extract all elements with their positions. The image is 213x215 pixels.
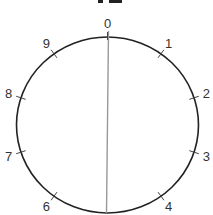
- tick-label-9: 9: [43, 36, 50, 51]
- cutoff-mark-right: [109, 0, 122, 3]
- tick-label-7: 7: [5, 149, 12, 164]
- cutoff-mark-left: [98, 0, 103, 3]
- tick-mark: [158, 50, 164, 58]
- tick-label-4: 4: [165, 199, 172, 214]
- tick-mark: [158, 192, 164, 200]
- tick-mark: [51, 50, 57, 58]
- tick-mark: [51, 192, 57, 200]
- tick-label-1: 1: [165, 36, 172, 51]
- tick-label-0: 0: [104, 16, 111, 31]
- circle-diagram: 012346789: [0, 0, 213, 215]
- tick-label-8: 8: [5, 86, 12, 101]
- tick-label-2: 2: [203, 86, 210, 101]
- tick-label-6: 6: [43, 199, 50, 214]
- vertical-chord-line: [107, 31, 109, 213]
- tick-label-3: 3: [203, 149, 210, 164]
